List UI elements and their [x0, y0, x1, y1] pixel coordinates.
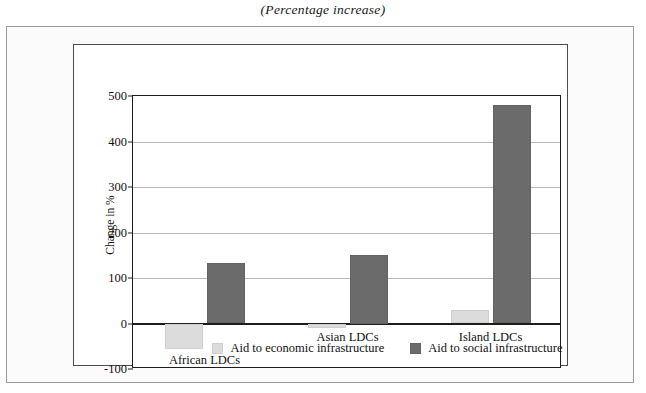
y-axis-tick-mark [128, 232, 133, 233]
legend-item-economic: Aid to economic infrastructure [212, 341, 384, 356]
gridline [133, 96, 560, 97]
legend-swatch-economic-icon [212, 343, 223, 354]
y-axis-tick-mark [128, 323, 133, 324]
y-axis-tick-mark [128, 369, 133, 370]
bar-island-ldcs-social [493, 105, 531, 323]
y-axis-tick-label: 500 [108, 89, 127, 104]
bar-island-ldcs-economic [451, 310, 489, 324]
legend-label-social: Aid to social infrastructure [428, 341, 562, 356]
y-axis-tick-mark [128, 278, 133, 279]
y-axis-tick-mark [128, 187, 133, 188]
y-axis-tick-label: 200 [108, 225, 127, 240]
y-axis-tick-label: 100 [108, 271, 127, 286]
bar-asian-ldcs-economic [308, 324, 346, 329]
legend-swatch-social-icon [410, 343, 421, 354]
gridline [133, 369, 560, 370]
chart-panel: Change in % -1000100200300400500African … [73, 44, 568, 366]
y-axis-tick-label: 300 [108, 180, 127, 195]
plot-area: -1000100200300400500African LDCsAsian LD… [132, 95, 561, 368]
bar-asian-ldcs-social [350, 255, 388, 323]
bar-african-ldcs-social [207, 263, 245, 324]
legend-label-economic: Aid to economic infrastructure [230, 341, 384, 356]
chart-legend: Aid to economic infrastructure Aid to so… [140, 341, 635, 356]
y-axis-tick-label: -100 [104, 362, 127, 377]
y-axis-tick-mark [128, 141, 133, 142]
y-axis-tick-label: 0 [121, 316, 127, 331]
chart-title: (Percentage increase) [0, 2, 646, 18]
legend-item-social: Aid to social infrastructure [410, 341, 562, 356]
outer-frame: Change in % -1000100200300400500African … [6, 26, 634, 383]
y-axis-tick-label: 400 [108, 134, 127, 149]
y-axis-tick-mark [128, 96, 133, 97]
